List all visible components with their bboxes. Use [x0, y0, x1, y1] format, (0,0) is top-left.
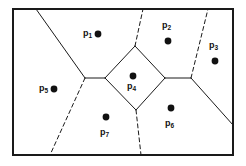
- site-label-subscript-p1: 1: [89, 32, 93, 39]
- voronoi-edge-e-diamond-ul: [105, 46, 135, 78]
- voronoi-edge-e-bottom-down: [136, 110, 141, 155]
- site-label-p5: p5: [39, 84, 48, 93]
- frame-rect: [13, 9, 233, 155]
- voronoi-edge-e-right-up: [191, 9, 208, 78]
- site-label-p4: p4: [127, 82, 136, 91]
- site-label-subscript-p5: 5: [45, 87, 49, 94]
- site-dots: [51, 31, 219, 121]
- site-dot-p2: [165, 38, 172, 45]
- site-label-base-p4: p: [127, 81, 133, 91]
- site-label-p1: p1: [83, 29, 92, 38]
- site-dot-p3: [212, 58, 219, 65]
- voronoi-edge-e-right-down: [191, 78, 233, 125]
- voronoi-edge-e-apex-up: [135, 9, 143, 46]
- site-label-p7: p7: [100, 128, 109, 137]
- site-label-base-p1: p: [83, 28, 89, 38]
- site-label-base-p7: p: [100, 127, 106, 137]
- voronoi-edge-e-diamond-ur: [135, 46, 165, 78]
- voronoi-figure: p1p2p3p4p5p6p7: [0, 0, 246, 166]
- diagram-frame: [13, 9, 233, 155]
- site-dot-p6: [168, 105, 175, 112]
- site-label-base-p6: p: [165, 118, 171, 128]
- voronoi-canvas: [0, 0, 246, 166]
- site-label-p3: p3: [209, 41, 218, 50]
- site-label-subscript-p6: 6: [171, 122, 175, 129]
- site-label-subscript-p3: 3: [215, 44, 219, 51]
- site-label-subscript-p4: 4: [133, 85, 137, 92]
- site-label-base-p3: p: [209, 40, 215, 50]
- site-dot-p4: [130, 73, 137, 80]
- voronoi-edge-e-diamond-lr: [136, 78, 165, 110]
- voronoi-edge-e-top-left: [36, 9, 85, 78]
- site-label-subscript-p2: 2: [168, 24, 172, 31]
- site-label-subscript-p7: 7: [106, 131, 110, 138]
- site-dot-p5: [51, 86, 58, 93]
- site-label-p2: p2: [162, 21, 171, 30]
- site-dot-p7: [103, 114, 110, 121]
- site-dot-p1: [95, 31, 102, 38]
- site-label-p6: p6: [165, 119, 174, 128]
- site-label-base-p5: p: [39, 83, 45, 93]
- site-label-base-p2: p: [162, 20, 168, 30]
